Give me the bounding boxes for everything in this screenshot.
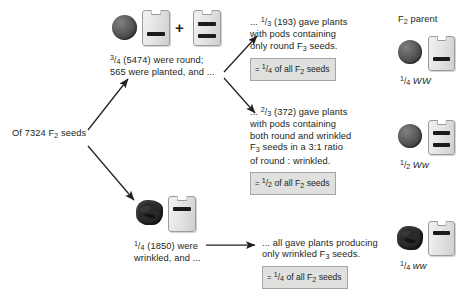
start-label: Of 7324 F2 seeds (12, 128, 86, 142)
pod-notch (202, 10, 213, 15)
pod-notch (436, 221, 447, 226)
pod-icon-round-two-bars (193, 10, 221, 46)
plus-symbol: + (175, 22, 184, 33)
round-branch-line1: were round; (153, 55, 203, 65)
parent-Ww-label: 1/2 Ww (400, 158, 429, 171)
result-box-quarter-bottom: = 1/4 of all F2 seeds (262, 266, 348, 289)
outcome-round-only-text: ... 1/3 (193) gave plantswith pods conta… (250, 14, 347, 55)
arrow-start-to-wrinkled (88, 146, 134, 200)
pod-notch (436, 120, 447, 125)
parent-ww-label: 1/4 ww (400, 259, 427, 272)
outcome-mixed-text: ... 2/3 (372) gave plantswith pods conta… (250, 104, 351, 168)
result-box-fraction: 1/2 (262, 179, 272, 188)
parent-Ww-genotype: Ww (413, 159, 429, 170)
result-box-fraction: 1/4 (262, 65, 272, 74)
round-branch-count: (5474) (123, 55, 150, 65)
round-branch-line2: 565 were planted, and ... (110, 67, 215, 77)
outcome2-count: (372) (274, 107, 296, 117)
pod-seed-bar (433, 231, 450, 235)
result-box-quarter-top: = 1/4 of all F2 seeds (250, 58, 336, 81)
parent-ww-seed-icon (397, 226, 423, 250)
pod-seed-bar (198, 34, 215, 38)
pod-seed-bar (198, 22, 215, 26)
pod-icon-round-one-bar (142, 10, 170, 46)
result-box-fraction: 1/4 (274, 273, 284, 282)
result-box-half: = 1/2 of all F2 seeds (250, 172, 336, 195)
pod-seed-bar (147, 32, 164, 36)
parent-ww-pod-icon (428, 221, 455, 256)
pod-notch (151, 10, 162, 15)
outcome1-fraction: 1/3 (261, 18, 272, 27)
f2-parent-header: F2 parent (398, 14, 437, 28)
parent-Ww-seed-icon (398, 124, 422, 148)
pod-seed-bar (433, 143, 450, 147)
parent-WW-genotype: WW (413, 75, 431, 86)
parent-ww-fraction: 1/4 (400, 262, 410, 271)
wrinkled-branch-label: 1/4 (1850) werewrinkled, and ... (134, 238, 201, 265)
genetics-pedigree-diagram: Of 7324 F2 seeds + 3/4 (5474) were round… (0, 0, 470, 297)
pod-seed-bar (433, 57, 450, 61)
parent-WW-fraction: 1/4 (400, 77, 410, 86)
wrinkled-branch-count: (1850) (147, 241, 174, 251)
pod-seed-bar (433, 131, 450, 135)
round-branch-label: 3/4 (5474) were round;565 were planted, … (110, 52, 215, 79)
arrow-start-to-round (88, 79, 128, 130)
parent-Ww-pod-icon (428, 120, 455, 155)
parent-WW-pod-icon (428, 36, 455, 71)
pod-notch (436, 36, 447, 41)
pod-seed-bar (173, 207, 190, 211)
pod-icon-wrinkled (168, 196, 196, 232)
outcome1-count: (193) (274, 17, 296, 27)
parent-Ww-fraction: 1/2 (400, 161, 410, 170)
wrinkled-branch-fraction: 1/4 (134, 242, 145, 251)
round-branch-fraction: 3/4 (110, 56, 121, 65)
parent-WW-seed-icon (398, 40, 422, 64)
parent-ww-genotype: ww (413, 260, 427, 271)
wrinkled-seed-icon (136, 200, 163, 225)
round-seed-icon (112, 15, 137, 40)
outcome2-fraction: 2/3 (261, 108, 272, 117)
outcome-wrinkled-only-text: ... all gave plants producingonly wrinkl… (262, 238, 378, 264)
parent-WW-label: 1/4 WW (400, 74, 431, 87)
pod-notch (177, 196, 188, 201)
